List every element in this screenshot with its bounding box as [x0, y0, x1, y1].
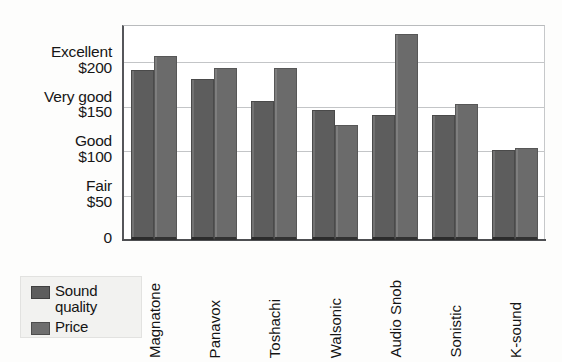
bar-price [214, 68, 237, 240]
bar-group [251, 25, 297, 240]
bar-sound-quality [492, 150, 515, 240]
y-tick-200: Excellent$200 [51, 44, 112, 76]
bar-sound-quality [131, 70, 154, 240]
y-tick-word: Very good [44, 89, 112, 105]
x-label-text: Sonistic [446, 305, 463, 358]
x-label-text: Magnatone [146, 283, 163, 358]
legend-label-line2: quality [55, 299, 97, 315]
y-tick-value: 0 [104, 230, 112, 246]
y-axis-labels: 0Fair$50Good$100Very good$150Excellent$2… [0, 25, 116, 240]
bar-price [274, 68, 297, 240]
y-tick-150: Very good$150 [44, 89, 112, 121]
x-label-toshachi: Toshachi [251, 246, 297, 358]
y-tick-word: Excellent [51, 44, 112, 60]
bar-groups [124, 25, 545, 240]
bar-price [515, 148, 538, 240]
y-tick-value: $150 [44, 104, 112, 120]
legend-item-price: Price [31, 319, 141, 335]
bar-chart-figure: 0Fair$50Good$100Very good$150Excellent$2… [0, 0, 562, 362]
y-tick-value: $200 [51, 60, 112, 76]
x-label-text: Audio Snob [386, 280, 403, 358]
y-tick-0: 0 [104, 230, 112, 246]
bar-sound-quality [312, 110, 335, 240]
x-label-text: Walsonic [326, 298, 343, 358]
bar-sound-quality [372, 115, 395, 240]
bar-sound-quality [191, 79, 214, 240]
bar-sound-quality [251, 101, 274, 240]
bar-group [492, 25, 538, 240]
y-tick-value: $50 [86, 194, 112, 210]
legend-label: Price [55, 319, 88, 335]
x-label-sonistic: Sonistic [432, 246, 478, 358]
bar-price [335, 125, 358, 240]
x-label-text: Panavox [206, 300, 223, 358]
y-tick-word: Good [75, 133, 112, 149]
chart-legend: SoundqualityPrice [20, 276, 142, 338]
bar-price [154, 56, 177, 240]
x-label-text: K-sound [506, 302, 523, 358]
bar-group [191, 25, 237, 240]
x-label-audio-snob: Audio Snob [372, 246, 418, 358]
bar-group [372, 25, 418, 240]
bar-group [432, 25, 478, 240]
x-label-walsonic: Walsonic [312, 246, 358, 358]
legend-swatch-sound-quality [31, 286, 50, 299]
y-tick-100: Good$100 [75, 133, 112, 165]
x-label-text: Toshachi [266, 299, 283, 358]
bar-group [312, 25, 358, 240]
bar-group [131, 25, 177, 240]
x-axis-labels: MagnatonePanavoxToshachiWalsonicAudio Sn… [124, 244, 545, 362]
y-tick-50: Fair$50 [86, 178, 112, 210]
x-label-k-sound: K-sound [492, 246, 538, 358]
y-tick-value: $100 [75, 149, 112, 165]
bar-price [395, 34, 418, 240]
y-tick-word: Fair [86, 178, 112, 194]
x-label-panavox: Panavox [191, 246, 237, 358]
legend-swatch-price [31, 322, 50, 335]
bar-sound-quality [432, 115, 455, 240]
bar-price [455, 104, 478, 240]
legend-label: Soundquality [55, 283, 97, 315]
legend-item-sound-quality: Soundquality [31, 283, 141, 315]
